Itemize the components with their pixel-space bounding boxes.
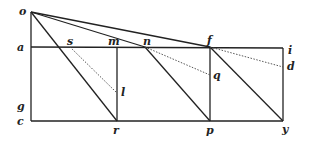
label-f: f [206, 34, 214, 47]
line-o-n [31, 12, 145, 47]
label-o: o [19, 5, 26, 18]
label-c: c [17, 115, 24, 128]
line-f-y [210, 47, 283, 121]
label-n: n [143, 35, 151, 48]
label-p: p [206, 124, 214, 137]
line-n-p [145, 47, 210, 121]
label-l: l [121, 86, 125, 99]
line-o-f [31, 12, 210, 47]
label-g: g [17, 100, 25, 113]
label-i: i [288, 44, 292, 57]
geometric-diagram: o a g c s m n f i d l q r p y [0, 0, 309, 145]
label-q: q [213, 69, 221, 82]
label-s: s [67, 35, 73, 48]
dotted-line-n-q [145, 47, 210, 75]
label-a: a [17, 41, 24, 54]
label-r: r [113, 124, 120, 137]
line-o-r [31, 12, 117, 121]
dotted-line-f-d [210, 47, 283, 67]
label-d: d [287, 60, 295, 73]
label-y: y [281, 123, 290, 136]
label-m: m [108, 35, 120, 48]
